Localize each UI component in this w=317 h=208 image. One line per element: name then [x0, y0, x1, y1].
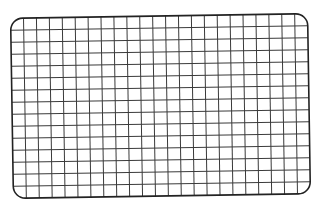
- grid-line-horizontal: [12, 122, 309, 127]
- grid-line-horizontal: [12, 134, 309, 139]
- grid-line-vertical: [243, 15, 246, 195]
- grid-line-horizontal: [13, 170, 310, 175]
- grid-line-horizontal: [13, 182, 310, 187]
- grid-line-horizontal: [11, 38, 308, 43]
- grid-line-vertical: [49, 18, 52, 198]
- grid-line-vertical: [204, 15, 207, 195]
- grid-line-vertical: [75, 17, 78, 197]
- grid-line-vertical: [101, 17, 104, 197]
- grid-line-vertical: [230, 15, 233, 195]
- grid-line-vertical: [191, 16, 194, 196]
- grid-line-vertical: [153, 16, 156, 196]
- grid-line-vertical: [295, 14, 298, 194]
- grid-line-vertical: [88, 17, 91, 197]
- grid-lines: [11, 14, 311, 199]
- grid-line-vertical: [166, 16, 169, 196]
- grid-line-horizontal: [12, 98, 309, 103]
- grid-line-horizontal: [13, 158, 310, 163]
- grid-line-vertical: [24, 18, 27, 198]
- grid-illustration: [0, 0, 317, 208]
- grid-line-horizontal: [11, 62, 308, 67]
- grid-line-vertical: [217, 15, 220, 195]
- grid-line-vertical: [256, 14, 259, 194]
- grid-line-horizontal: [12, 74, 309, 79]
- grid-line-vertical: [127, 17, 130, 197]
- grid-line-horizontal: [13, 146, 310, 151]
- grid-line-vertical: [62, 18, 65, 198]
- grid-line-vertical: [269, 14, 272, 194]
- grid-line-horizontal: [11, 50, 308, 55]
- grid-line-vertical: [140, 16, 143, 196]
- grid-panel: [11, 14, 311, 199]
- grid-line-vertical: [178, 16, 181, 196]
- grid-line-vertical: [36, 18, 39, 198]
- grid-line-vertical: [282, 14, 285, 194]
- grid-line-vertical: [114, 17, 117, 197]
- grid-line-horizontal: [12, 110, 309, 115]
- grid-line-horizontal: [11, 26, 308, 31]
- grid-line-horizontal: [12, 86, 309, 91]
